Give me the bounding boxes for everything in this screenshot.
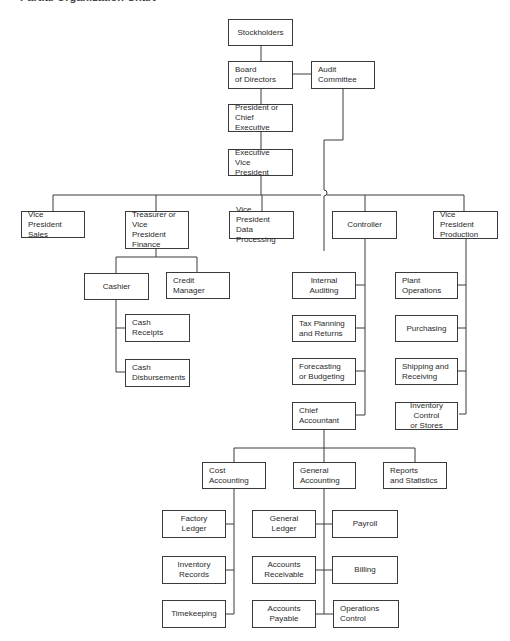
node-vp-data-processing: Vice President Data Processing <box>229 211 294 239</box>
node-cost-accounting: Cost Accounting <box>202 462 266 489</box>
node-shipping-receiving: Shipping and Receiving <box>395 358 458 385</box>
node-board-of-directors: Board of Directors <box>228 61 293 89</box>
node-inventory-records: Inventory Records <box>162 556 226 584</box>
node-general-ledger: General Ledger <box>252 510 316 538</box>
node-tax-planning: Tax Planning and Returns <box>292 315 356 342</box>
node-cashier: Cashier <box>84 273 149 300</box>
node-operations-control: Operations Control <box>333 600 399 628</box>
node-president: President or Chief Executive <box>228 104 293 132</box>
node-cash-receipts: Cash Receipts <box>125 314 190 342</box>
node-factory-ledger: Factory Ledger <box>162 510 226 538</box>
node-executive-vp: Executive Vice President <box>228 149 293 176</box>
node-reports-statistics: Reports and Statistics <box>383 462 447 489</box>
node-credit-manager: Credit Manager <box>166 272 230 299</box>
node-payroll: Payroll <box>332 510 398 538</box>
node-accounts-payable: Accounts Payable <box>252 600 316 628</box>
node-inventory-control: Inventory Control or Stores <box>395 402 458 430</box>
node-plant-operations: Plant Operations <box>395 272 458 299</box>
node-stockholders: Stockholders <box>228 19 293 46</box>
node-timekeeping: Timekeeping <box>162 600 226 628</box>
node-treasurer: Treasurer or Vice President Finance <box>125 211 189 249</box>
node-cash-disbursements: Cash Disbursements <box>125 359 190 387</box>
node-audit-committee: Audit Committee <box>311 61 375 89</box>
node-vp-production: Vice President Production <box>433 211 498 239</box>
node-chief-accountant: Chief Accountant <box>292 402 356 430</box>
node-purchasing: Purchasing <box>395 315 458 342</box>
node-internal-auditing: Internal Auditing <box>292 272 356 299</box>
node-billing: Billing <box>332 556 398 584</box>
node-accounts-receivable: Accounts Receivable <box>252 556 316 584</box>
node-general-accounting: General Accounting <box>293 462 356 489</box>
node-vp-sales: Vice President Sales <box>21 211 85 238</box>
node-forecasting: Forecasting or Budgeting <box>292 358 356 385</box>
node-controller: Controller <box>332 211 397 239</box>
